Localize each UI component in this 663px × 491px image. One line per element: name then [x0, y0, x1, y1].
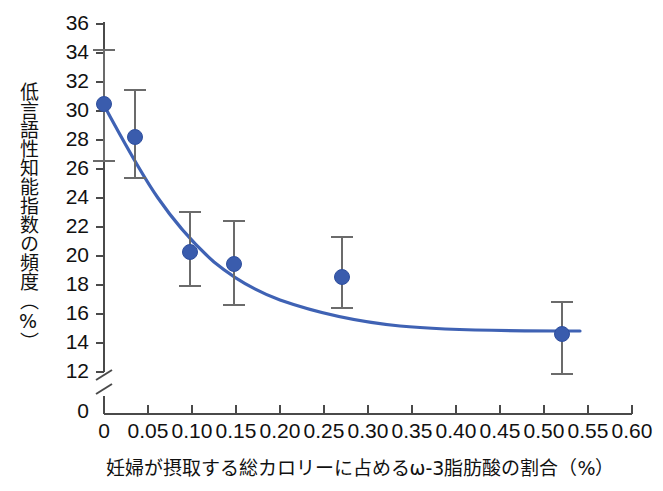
y-axis-break-icon-2 — [96, 384, 112, 394]
y-axis-group: 36 34 32 30 28 26 24 22 20 18 16 14 12 0 — [66, 11, 112, 422]
y-tick-label: 20 — [66, 243, 89, 266]
x-tick-marks — [104, 405, 632, 414]
x-tick-label: 0 — [98, 419, 110, 442]
data-point — [183, 245, 198, 260]
x-tick-label: 0.25 — [304, 419, 345, 442]
x-tick-label: 0.35 — [392, 419, 433, 442]
y-tick-label: 14 — [66, 330, 90, 353]
data-point — [97, 97, 112, 112]
y-tick-label: 30 — [66, 98, 89, 121]
y-tick-label-zero: 0 — [77, 399, 89, 422]
y-tick-label: 12 — [66, 359, 89, 382]
x-axis-title: 妊婦が摂取する総カロリーに占めるω-3脂肪酸の割合（%） — [106, 457, 615, 479]
y-tick-label: 34 — [66, 40, 90, 63]
data-point — [128, 130, 143, 145]
y-tick-label: 22 — [66, 214, 89, 237]
x-tick-label: 0.20 — [260, 419, 301, 442]
chart-figure: 36 34 32 30 28 26 24 22 20 18 16 14 12 0 — [0, 0, 663, 491]
data-point — [335, 270, 350, 285]
x-tick-label: 0.45 — [480, 419, 521, 442]
y-tick-label: 32 — [66, 69, 89, 92]
x-tick-label: 0.30 — [348, 419, 389, 442]
x-tick-label: 0.10 — [172, 419, 213, 442]
x-tick-label: 0.50 — [524, 419, 565, 442]
chart-svg: 36 34 32 30 28 26 24 22 20 18 16 14 12 0 — [0, 0, 663, 491]
data-point — [227, 257, 242, 272]
x-tick-label: 0.55 — [568, 419, 609, 442]
x-tick-label: 0.60 — [612, 419, 653, 442]
x-tick-label: 0.15 — [216, 419, 257, 442]
error-bars-group — [93, 50, 573, 374]
y-tick-label: 28 — [66, 127, 89, 150]
y-tick-marks — [96, 24, 104, 372]
y-axis-title: 低言語性知能指数の頻度（%） — [8, 82, 38, 351]
x-tick-label: 0.40 — [436, 419, 477, 442]
y-tick-label: 16 — [66, 301, 89, 324]
y-tick-label: 36 — [66, 11, 89, 34]
data-point — [555, 327, 570, 342]
x-axis-group: 0 0.05 0.10 0.15 0.20 0.25 0.30 0.35 0.4… — [98, 405, 652, 442]
y-tick-label: 26 — [66, 156, 89, 179]
y-tick-label: 24 — [66, 185, 90, 208]
y-tick-label: 18 — [66, 272, 89, 295]
data-points-group — [97, 97, 570, 342]
x-tick-label: 0.05 — [128, 419, 169, 442]
